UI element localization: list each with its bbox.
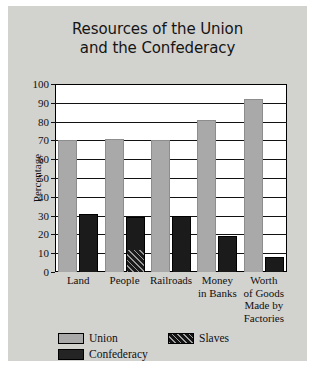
- y-tick-label-100: 100: [33, 78, 50, 90]
- bar-group: [241, 84, 287, 272]
- plot-area: Percentage 0102030405060708090100: [55, 84, 287, 272]
- x-category-label: Railroads: [145, 274, 197, 287]
- slaves-swatch: [168, 333, 194, 344]
- bar-confederacy: [126, 217, 145, 272]
- x-category-label-line: People: [98, 274, 150, 287]
- y-tick-label-90: 90: [38, 97, 49, 109]
- x-category-label: Moneyin Banks: [191, 274, 243, 299]
- chart-title-line-1: Resources of the Union: [8, 20, 307, 39]
- chart-legend: UnionSlavesConfederacy: [8, 332, 307, 362]
- y-tick-label-80: 80: [38, 116, 49, 128]
- x-category-label-line: Money: [191, 274, 243, 287]
- x-category-label: People: [98, 274, 150, 287]
- legend-label: Slaves: [199, 332, 229, 344]
- union-swatch: [58, 333, 84, 344]
- x-category-label: Land: [52, 274, 104, 287]
- bar-confederacy: [172, 216, 191, 272]
- y-tick-label-10: 10: [38, 247, 49, 259]
- y-tick-label-40: 40: [38, 191, 49, 203]
- chart-card: Resources of the Union and the Confedera…: [8, 6, 307, 361]
- confederacy-swatch: [58, 349, 84, 360]
- bar-group: [101, 84, 147, 272]
- y-tick-label-0: 0: [44, 266, 50, 278]
- y-tick-label-20: 20: [38, 228, 49, 240]
- bar-confederacy: [218, 236, 237, 272]
- legend-label: Confederacy: [89, 348, 148, 360]
- legend-item: Union: [58, 332, 118, 344]
- y-tick-label-70: 70: [38, 134, 49, 146]
- x-category-label-line: Factories: [238, 312, 290, 325]
- y-tick-label-50: 50: [38, 172, 49, 184]
- bar-union: [151, 140, 170, 272]
- bar-confederacy: [265, 257, 284, 272]
- x-axis-labels: LandPeopleRailroadsMoneyin BanksWorthof …: [55, 274, 287, 330]
- bar-group: [194, 84, 240, 272]
- x-category-label-line: Worth: [238, 274, 290, 287]
- y-tick-0: [51, 272, 55, 273]
- legend-item: Slaves: [168, 332, 229, 344]
- bar-union: [244, 99, 263, 272]
- chart-title: Resources of the Union and the Confedera…: [8, 20, 307, 58]
- bar-union: [105, 139, 124, 272]
- bar-slaves-segment: [127, 250, 144, 272]
- bar-group: [148, 84, 194, 272]
- x-category-label: Worthof GoodsMade byFactories: [238, 274, 290, 324]
- legend-label: Union: [89, 332, 118, 344]
- x-category-label-line: Land: [52, 274, 104, 287]
- x-category-label-line: in Banks: [191, 287, 243, 300]
- chart-title-line-2: and the Confederacy: [8, 39, 307, 58]
- y-tick-label-30: 30: [38, 210, 49, 222]
- bar-union: [197, 120, 216, 272]
- x-category-label-line: Railroads: [145, 274, 197, 287]
- y-tick-label-60: 60: [38, 153, 49, 165]
- bar-group: [55, 84, 101, 272]
- x-category-label-line: of Goods: [238, 287, 290, 300]
- legend-item: Confederacy: [58, 348, 148, 360]
- bar-union: [58, 140, 77, 272]
- x-category-label-line: Made by: [238, 299, 290, 312]
- bar-confederacy: [79, 214, 98, 272]
